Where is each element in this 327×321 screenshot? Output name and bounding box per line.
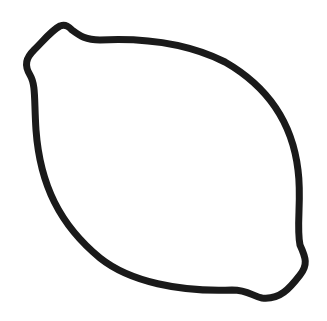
lemon-outline-icon bbox=[0, 0, 327, 321]
drawing-canvas: Black line drawing of a lemon-shaped clo… bbox=[0, 0, 327, 321]
lemon-outline-path bbox=[27, 25, 306, 298]
